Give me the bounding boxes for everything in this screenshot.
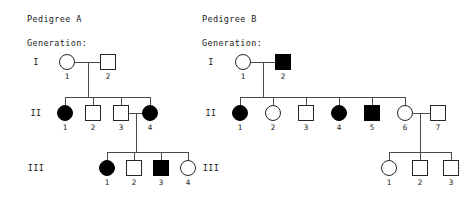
label-b-ii-2: 2: [271, 123, 276, 132]
pedigree-a-generation-iii-roman: III: [28, 163, 44, 173]
symbol-b-ii-7-male-unaffected[interactable]: [431, 106, 446, 121]
symbol-b-ii-3-male-unaffected[interactable]: [299, 106, 314, 121]
symbol-b-iii-2-male-unaffected[interactable]: [413, 161, 428, 176]
label-b-ii-5: 5: [370, 123, 375, 132]
symbol-b-iii-3-male-unaffected[interactable]: [444, 161, 459, 176]
symbol-a-iii-3-male-affected[interactable]: [154, 161, 169, 176]
label-b-iii-2: 2: [418, 178, 423, 187]
label-b-ii-6: 6: [403, 123, 408, 132]
pedigree-canvas: [0, 0, 476, 203]
label-a-ii-3: 3: [119, 123, 124, 132]
label-a-ii-4: 4: [148, 123, 153, 132]
label-a-iii-1: 1: [105, 178, 110, 187]
label-b-i-1: 1: [241, 72, 246, 81]
symbol-b-ii-1-female-affected[interactable]: [233, 106, 248, 121]
symbol-b-ii-2-female-unaffected[interactable]: [266, 106, 281, 121]
label-a-iii-4: 4: [186, 178, 191, 187]
symbol-a-ii-2-male-unaffected[interactable]: [86, 106, 101, 121]
symbol-a-iii-4-female-unaffected[interactable]: [181, 161, 196, 176]
symbol-a-ii-1-female-affected[interactable]: [58, 106, 73, 121]
symbol-a-iii-1-female-affected[interactable]: [100, 161, 115, 176]
pedigree-b-symbols: [233, 55, 459, 176]
label-a-iii-3: 3: [159, 178, 164, 187]
symbol-a-i-2-male-unaffected[interactable]: [101, 55, 116, 70]
pedigree-b-generation-label: Generation:: [202, 38, 262, 48]
symbol-b-ii-6-female-unaffected[interactable]: [398, 106, 413, 121]
label-b-ii-1: 1: [238, 123, 243, 132]
pedigree-a-symbols: [58, 55, 196, 176]
symbol-a-ii-4-female-affected[interactable]: [143, 106, 158, 121]
label-b-iii-1: 1: [387, 178, 392, 187]
label-b-iii-3: 3: [449, 178, 454, 187]
symbol-b-iii-1-female-unaffected[interactable]: [382, 161, 397, 176]
pedigree-b-title: Pedigree B: [202, 14, 257, 24]
symbol-a-ii-3-male-unaffected[interactable]: [114, 106, 129, 121]
symbol-b-i-2-male-affected[interactable]: [276, 55, 291, 70]
label-b-ii-4: 4: [337, 123, 342, 132]
pedigree-b-generation-ii-roman: II: [206, 108, 217, 118]
pedigree-a-title: Pedigree A: [27, 14, 82, 24]
symbol-a-iii-2-male-unaffected[interactable]: [127, 161, 142, 176]
label-a-i-2: 2: [106, 72, 111, 81]
label-a-ii-2: 2: [91, 123, 96, 132]
pedigree-a-generation-label: Generation:: [27, 38, 87, 48]
label-b-ii-7: 7: [436, 123, 441, 132]
pedigree-a-generation-i-roman: I: [33, 57, 38, 67]
pedigree-b-generation-iii-roman: III: [203, 163, 219, 173]
symbol-b-ii-5-male-affected[interactable]: [365, 106, 380, 121]
symbol-b-ii-4-female-affected[interactable]: [332, 106, 347, 121]
label-b-i-2: 2: [281, 72, 286, 81]
label-a-i-1: 1: [65, 72, 70, 81]
label-a-iii-2: 2: [132, 178, 137, 187]
symbol-a-i-1-female-unaffected[interactable]: [60, 55, 75, 70]
pedigree-a-generation-ii-roman: II: [31, 108, 42, 118]
label-b-ii-3: 3: [304, 123, 309, 132]
symbol-b-i-1-female-unaffected[interactable]: [236, 55, 251, 70]
label-a-ii-1: 1: [63, 123, 68, 132]
pedigree-b-generation-i-roman: I: [208, 57, 213, 67]
pedigree-figure: Pedigree A Generation: I II III 1 2 1 2 …: [0, 0, 476, 203]
